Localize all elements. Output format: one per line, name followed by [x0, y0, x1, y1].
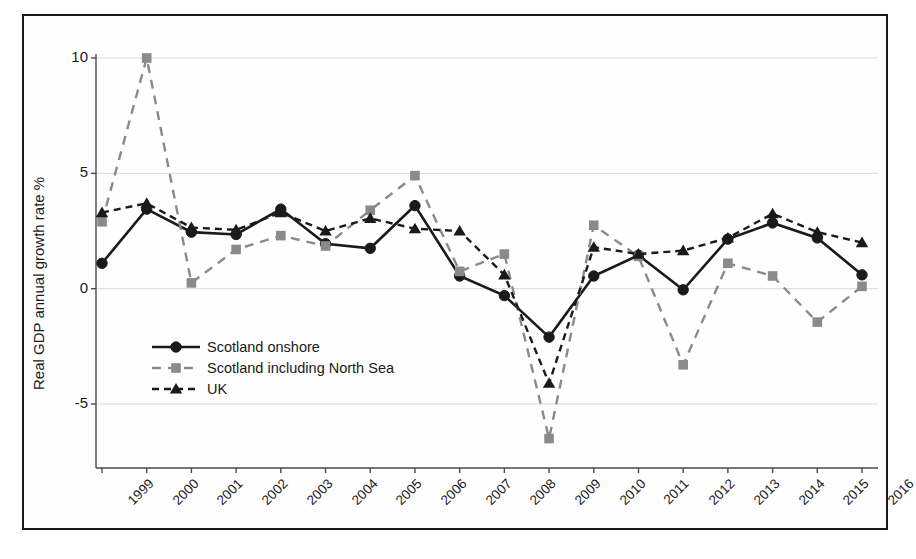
- circle-marker: [678, 285, 688, 295]
- legend-swatch: [150, 358, 202, 378]
- square-marker: [723, 258, 733, 268]
- chart-legend: Scotland onshoreScotland including North…: [150, 336, 394, 399]
- y-tick-label: -5: [48, 394, 88, 411]
- legend-label: UK: [207, 381, 227, 397]
- circle-marker: [365, 243, 375, 253]
- y-tick-label: 0: [48, 279, 88, 296]
- square-marker: [187, 278, 197, 288]
- circle-marker: [589, 271, 599, 281]
- triangle-marker: [766, 208, 778, 219]
- triangle-marker: [141, 197, 153, 208]
- triangle-marker: [453, 225, 465, 236]
- circle-marker: [767, 218, 777, 228]
- series-line: [102, 206, 862, 337]
- square-marker: [455, 267, 465, 277]
- legend-item-2: Scotland including North Sea: [150, 357, 394, 378]
- y-tick-label: 10: [48, 48, 88, 65]
- square-marker: [589, 220, 599, 230]
- square-marker: [500, 249, 510, 259]
- y-axis-title: Real GDP annual growth rate %: [30, 177, 47, 390]
- legend-item-1: Scotland onshore: [150, 336, 394, 357]
- circle-marker: [544, 332, 554, 342]
- square-marker: [97, 217, 107, 227]
- legend-label: Scotland including North Sea: [207, 360, 394, 376]
- y-tick-label: 5: [48, 163, 88, 180]
- square-marker: [544, 434, 554, 444]
- circle-marker: [97, 258, 107, 268]
- legend-swatch: [150, 379, 202, 399]
- legend-label: Scotland onshore: [207, 339, 320, 355]
- circle-marker: [857, 270, 867, 280]
- triangle-marker: [543, 377, 555, 388]
- square-marker: [857, 282, 867, 292]
- circle-marker: [499, 290, 509, 300]
- square-marker: [768, 271, 778, 281]
- circle-marker: [171, 341, 181, 351]
- legend-swatch: [150, 337, 202, 357]
- square-marker: [812, 317, 822, 327]
- series-1: [97, 200, 867, 342]
- square-marker: [171, 363, 181, 373]
- square-marker: [321, 241, 331, 251]
- legend-item-3: UK: [150, 378, 394, 399]
- chart-container: Real GDP annual growth rate % 1050-5 199…: [0, 0, 916, 559]
- square-marker: [410, 171, 420, 181]
- square-marker: [678, 360, 688, 370]
- square-marker: [276, 231, 286, 241]
- square-marker: [142, 53, 152, 63]
- square-marker: [231, 245, 241, 255]
- circle-marker: [410, 200, 420, 210]
